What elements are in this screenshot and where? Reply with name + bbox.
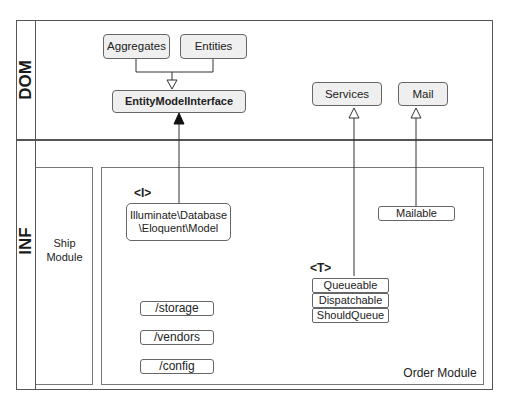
trait-stereotype-tag: <T> xyxy=(310,261,331,275)
entity-model-interface-box[interactable]: EntityModelInterface xyxy=(112,90,246,113)
eloquent-model-line1: Illuminate\Database xyxy=(130,209,227,222)
entities-box[interactable]: Entities xyxy=(180,34,247,59)
folder-storage[interactable]: /storage xyxy=(140,301,214,316)
folder-config[interactable]: /config xyxy=(140,359,214,374)
eloquent-model-box[interactable]: Illuminate\Database \Eloquent\Model xyxy=(126,203,231,241)
trait-queueable[interactable]: Queueable xyxy=(312,278,389,293)
trait-dispatchable[interactable]: Dispatchable xyxy=(312,293,389,308)
eloquent-model-line2: \Eloquent\Model xyxy=(139,222,219,235)
services-box[interactable]: Services xyxy=(312,82,382,106)
interface-stereotype-tag: <I> xyxy=(134,186,151,200)
folder-vendors[interactable]: /vendors xyxy=(140,330,214,345)
connectors xyxy=(0,0,511,403)
aggregates-box[interactable]: Aggregates xyxy=(103,34,170,59)
trait-should-queue[interactable]: ShouldQueue xyxy=(312,308,389,323)
mail-box[interactable]: Mail xyxy=(398,82,448,106)
mailable-box[interactable]: Mailable xyxy=(378,206,455,221)
